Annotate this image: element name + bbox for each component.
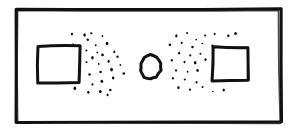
dot-marker [83, 33, 86, 36]
dot-marker [74, 87, 77, 91]
dot-marker [196, 81, 198, 83]
dot-marker [175, 69, 177, 71]
dot-marker [204, 58, 206, 61]
dot-marker [98, 63, 100, 65]
dot-marker [184, 79, 186, 81]
dot-marker [71, 33, 73, 36]
dot-marker [204, 34, 206, 36]
diagram-canvas [0, 0, 299, 129]
dot-marker [101, 54, 104, 57]
dot-marker [183, 61, 185, 64]
dot-marker [189, 54, 191, 56]
dot-marker [96, 51, 98, 53]
dot-marker [113, 51, 115, 54]
dot-marker [87, 91, 89, 94]
dot-marker [99, 71, 102, 73]
dot-marker [187, 71, 189, 73]
dot-marker [194, 61, 197, 65]
dot-marker [88, 73, 91, 75]
dot-marker [171, 59, 173, 61]
sketch-svg [0, 0, 299, 129]
dot-marker [189, 89, 191, 91]
dot-marker [102, 35, 104, 37]
dot-marker [122, 72, 125, 74]
dot-marker [191, 46, 193, 49]
dot-marker [109, 89, 111, 92]
dot-marker [172, 77, 174, 79]
dot-marker [212, 91, 214, 93]
dot-marker [108, 60, 110, 63]
dot-marker [112, 76, 115, 79]
dot-marker [199, 53, 201, 55]
dot-marker [110, 68, 113, 72]
dot-marker [178, 52, 180, 55]
dot-marker [214, 33, 216, 36]
dot-marker [177, 86, 179, 89]
dot-marker [181, 42, 183, 44]
dot-marker [116, 55, 118, 57]
dot-marker [87, 38, 89, 41]
dot-marker [119, 64, 121, 66]
dot-marker [107, 94, 109, 97]
dot-marker [95, 44, 97, 46]
dot-marker [169, 43, 172, 45]
dot-marker [100, 80, 103, 83]
dot-marker [99, 90, 102, 93]
dot-marker [196, 69, 199, 72]
dot-marker [227, 34, 230, 37]
dot-marker [186, 32, 188, 34]
dot-marker [90, 32, 92, 34]
dot-marker [85, 49, 87, 51]
dot-marker [72, 43, 74, 45]
dot-marker [91, 56, 94, 60]
dot-marker [234, 32, 237, 35]
dot-marker [202, 86, 204, 88]
dot-marker [86, 61, 88, 63]
dot-marker [223, 88, 225, 91]
dot-marker [211, 45, 213, 48]
dot-marker [106, 42, 109, 45]
dot-marker [91, 83, 93, 85]
dot-marker [175, 34, 177, 37]
dot-marker [195, 39, 197, 41]
dot-marker [201, 43, 203, 45]
canvas-background [0, 0, 299, 129]
